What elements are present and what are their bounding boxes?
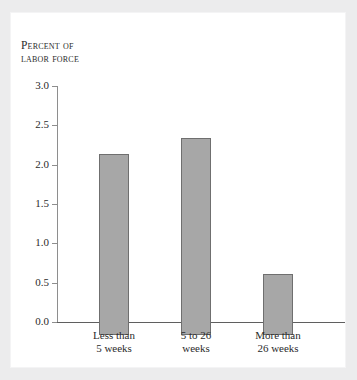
y-axis-tick-label: 1.0 [35,236,49,248]
figure-root: Percent of labor force 0.00.51.01.52.02.… [0,0,357,380]
y-axis-tick-mark [52,125,57,126]
y-axis-tick-label: 0.0 [35,315,49,327]
y-axis-tick-mark [52,283,57,284]
y-axis-title-line-1: Percent of [21,39,79,52]
y-axis-tick-label: 1.5 [35,197,49,209]
bar [263,274,293,335]
plot-area: 0.00.51.01.52.02.53.0 Less than5 weeks5 … [57,86,345,335]
y-axis-title: Percent of labor force [21,39,79,65]
bar [99,154,129,335]
y-axis-tick-mark [52,204,57,205]
x-axis-category-label-line: More than [223,329,333,342]
y-axis-tick-label: 3.0 [35,79,49,91]
y-axis-tick-mark [52,165,57,166]
y-axis-title-line-2: labor force [21,52,79,65]
y-axis-tick-label: 2.5 [35,118,49,130]
y-axis-tick-label: 0.5 [35,276,49,288]
chart-panel: Percent of labor force 0.00.51.01.52.02.… [11,13,345,367]
bar [181,138,211,335]
y-axis-tick-mark [52,322,57,323]
y-axis-tick-mark [52,243,57,244]
x-axis-category-label: More than26 weeks [223,329,333,354]
y-axis-line [57,86,58,323]
x-axis-category-label-line: 26 weeks [223,342,333,355]
y-axis-tick-label: 2.0 [35,158,49,170]
y-axis-tick-mark [52,86,57,87]
